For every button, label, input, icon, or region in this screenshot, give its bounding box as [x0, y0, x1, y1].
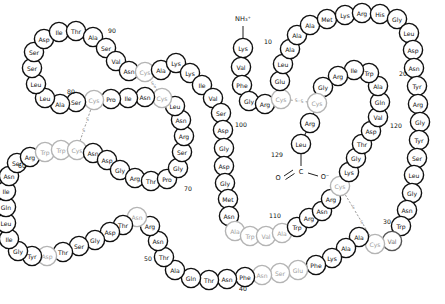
- residue-label: Arg: [260, 101, 271, 109]
- residue-label: Leu: [278, 61, 289, 68]
- residue-14-arg[interactable]: Arg: [352, 3, 371, 22]
- residue-label: Asp: [407, 47, 418, 55]
- disulfide-sulfur-label-lower: S: [86, 117, 89, 122]
- residue-34-phe[interactable]: Phe: [306, 255, 325, 274]
- residue-label: Asn: [152, 238, 163, 245]
- residue-40-thr[interactable]: Thr: [199, 270, 218, 289]
- residue-102-gly[interactable]: Gly: [214, 138, 233, 157]
- residue-37-asn[interactable]: Asn: [252, 265, 271, 284]
- residue-127-cys[interactable]: Cys: [307, 93, 326, 112]
- residue-128-arg[interactable]: Arg: [300, 113, 319, 132]
- residue-1-lys[interactable]: Lys: [233, 38, 252, 57]
- residue-label: Trp: [39, 149, 49, 157]
- residue-label: Trp: [363, 70, 373, 78]
- protein-sequence-svg: SSSSSSSS LysValPheGlyArgCysGluLeuAlaAlaA…: [0, 0, 445, 304]
- residue-label: Arg: [357, 10, 368, 18]
- residue-label: Trp: [395, 223, 405, 231]
- residue-7-glu[interactable]: Glu: [270, 71, 289, 90]
- residue-23-tyr[interactable]: Tyr: [409, 130, 428, 149]
- residue-label: Ile: [350, 67, 357, 74]
- residue-label: His: [375, 11, 384, 18]
- lysozyme-diagram-canvas: SSSSSSSS LysValPheGlyArgCysGluLeuAlaAlaA…: [0, 0, 445, 304]
- residue-number-40: 40: [239, 285, 247, 292]
- residue-label: Trp: [244, 233, 254, 241]
- residue-label: Ser: [177, 149, 188, 156]
- residue-label: Ile: [55, 29, 62, 36]
- residue-label: Val: [236, 64, 245, 71]
- residue-79-pro[interactable]: Pro: [101, 89, 120, 108]
- residue-12-met[interactable]: Met: [317, 9, 336, 28]
- residue-35-glu[interactable]: Glu: [288, 260, 307, 279]
- residue-20-tyr[interactable]: Tyr: [407, 76, 426, 95]
- residue-label: Cys: [88, 97, 99, 105]
- residue-label: Ala: [277, 230, 287, 237]
- residue-18-asp[interactable]: Asp: [403, 40, 422, 59]
- residue-label: Cys: [71, 147, 82, 155]
- residue-number-70: 70: [184, 185, 192, 192]
- residue-label: Leu: [409, 172, 420, 179]
- residue-label: Val: [208, 95, 217, 102]
- residue-label: Ser: [216, 110, 227, 117]
- residue-80-cys[interactable]: Cys: [84, 90, 103, 109]
- disulfide-sulfur-label-lower: S: [300, 99, 303, 104]
- residue-6-cys[interactable]: Cys: [271, 89, 290, 108]
- residue-13-lys[interactable]: Lys: [335, 5, 354, 24]
- residue-label: Val: [111, 58, 120, 65]
- residue-label: Thr: [158, 254, 170, 261]
- residue-label: Tyr: [27, 253, 37, 261]
- residue-label: Arg: [305, 120, 316, 128]
- disulfide-sulfur-label-upper: S: [82, 128, 85, 133]
- residue-label: Gly: [392, 16, 402, 24]
- residue-105-met[interactable]: Met: [218, 189, 237, 208]
- residue-label: Lys: [238, 45, 248, 53]
- residue-label: Asn: [316, 208, 327, 215]
- residue-label: Gln: [1, 204, 11, 211]
- residue-label: Thr: [356, 141, 368, 148]
- residue-15-his[interactable]: His: [370, 4, 389, 23]
- residue-label: Asn: [223, 213, 234, 220]
- residue-label: Gly: [244, 98, 254, 106]
- residue-label: Asp: [365, 128, 376, 136]
- residue-26-gly[interactable]: Gly: [402, 183, 421, 202]
- residue-number-80: 80: [67, 88, 75, 95]
- residue-label: Asp: [217, 127, 228, 135]
- residue-29-val[interactable]: Val: [382, 231, 401, 250]
- residue-label: Ser: [29, 49, 40, 56]
- residue-76-cys[interactable]: Cys: [152, 88, 171, 107]
- residue-78-ile[interactable]: Ile: [118, 88, 137, 107]
- residue-22-gly[interactable]: Gly: [410, 112, 429, 131]
- residue-89-thr[interactable]: Thr: [66, 21, 85, 40]
- carboxyl-oxygen-left-label: O: [275, 174, 280, 182]
- residue-100-ser[interactable]: Ser: [211, 103, 230, 122]
- residue-label: Ala: [341, 245, 351, 252]
- residue-24-ser[interactable]: Ser: [407, 148, 426, 167]
- residue-label: Cys: [334, 183, 345, 191]
- residue-label: Phe: [236, 82, 248, 89]
- residue-label: Gly: [173, 165, 183, 173]
- residue-label: Asn: [123, 68, 134, 75]
- residue-103-asp[interactable]: Asp: [214, 156, 233, 175]
- residue-17-leu[interactable]: Leu: [399, 23, 418, 42]
- residue-39-asn[interactable]: Asn: [217, 269, 236, 288]
- residue-88-ile[interactable]: Ile: [49, 22, 68, 41]
- residue-25-leu[interactable]: Leu: [404, 165, 423, 184]
- residue-label: Asp: [101, 157, 112, 165]
- residue-label: Ile: [5, 236, 12, 243]
- disulfide-sulfur-label-lower: S: [151, 81, 154, 86]
- residue-2-val[interactable]: Val: [231, 57, 250, 76]
- residue-label: Ala: [170, 267, 180, 274]
- residue-11-ala[interactable]: Ala: [300, 15, 319, 34]
- disulfide-bond: [291, 100, 308, 102]
- residue-21-arg[interactable]: Arg: [408, 94, 427, 113]
- residue-number-10: 10: [264, 38, 272, 45]
- residue-label: Phe: [310, 262, 322, 269]
- residue-101-asp[interactable]: Asp: [213, 120, 232, 139]
- residue-129-leu[interactable]: Leu: [291, 134, 310, 153]
- residue-group: LysValPheGlyArgCysGluLeuAlaAlaAlaMetLysA…: [0, 3, 430, 289]
- residue-number-129: 129: [271, 151, 283, 158]
- residue-77-asn[interactable]: Asn: [135, 87, 154, 106]
- residue-19-asn[interactable]: Asn: [404, 58, 423, 77]
- residue-label: Ile: [124, 95, 131, 102]
- disulfide-sulfur-label-lower: S: [352, 205, 355, 210]
- residue-36-ser[interactable]: Ser: [270, 263, 289, 282]
